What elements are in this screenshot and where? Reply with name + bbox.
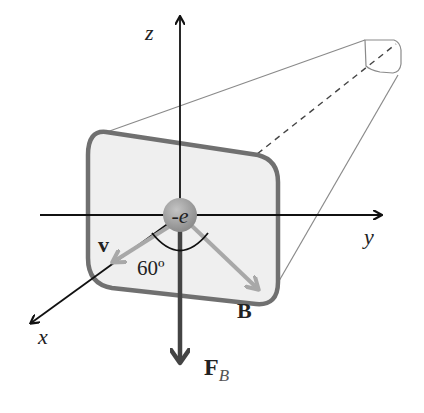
velocity-label: v — [98, 232, 109, 257]
z-axis-label: z — [144, 20, 154, 45]
magnetic-field-label: B — [237, 298, 252, 323]
tube-top-edge — [104, 40, 365, 133]
charge-label: -e — [171, 203, 188, 228]
tube-bottom-edge — [268, 75, 398, 300]
tube-far-face — [365, 40, 401, 73]
y-axis-label: y — [362, 224, 374, 249]
angle-label: 60º — [137, 256, 165, 280]
magnetic-force-diagram: -e z y x v B 60º FB — [0, 0, 424, 413]
x-axis-label: x — [37, 324, 48, 349]
force-label: FB — [204, 354, 230, 385]
